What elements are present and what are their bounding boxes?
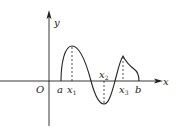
x1-label: x1 <box>67 84 76 96</box>
x2-label-sub: 2 <box>105 74 109 81</box>
b-label: b <box>135 84 141 95</box>
x3-label-sub: 3 <box>125 89 129 96</box>
x1-label-sub: 1 <box>73 89 77 96</box>
origin-label: O <box>36 84 44 95</box>
x-axis-label: x <box>163 76 169 87</box>
y-axis-label: y <box>53 17 60 28</box>
a-label: a <box>57 84 63 95</box>
function-graph: y x O a x1 x2 x3 b <box>0 0 179 139</box>
x2-label: x2 <box>99 69 109 81</box>
x3-label: x3 <box>119 84 129 96</box>
